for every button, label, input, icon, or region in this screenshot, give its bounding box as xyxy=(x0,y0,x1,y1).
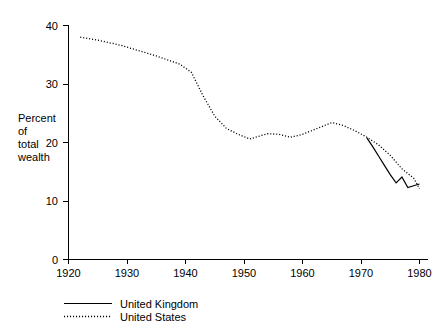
y-tick-label-40: 40 xyxy=(46,20,58,32)
legend-label-united-states: United States xyxy=(120,311,187,323)
y-tick-label-0: 0 xyxy=(52,254,58,266)
chart-container: 40 30 20 10 0 Percent of total wealth 19… xyxy=(0,0,447,331)
wealth-share-line-chart: 40 30 20 10 0 Percent of total wealth 19… xyxy=(0,0,447,331)
legend-label-united-kingdom: United Kingdom xyxy=(120,298,198,310)
chart-background xyxy=(0,0,447,331)
x-tick-label-1960: 1960 xyxy=(290,267,314,279)
y-tick-label-20: 20 xyxy=(46,137,58,149)
x-tick-label-1980: 1980 xyxy=(407,267,431,279)
y-axis-title-line-2: of xyxy=(18,125,28,137)
y-axis-title-line-1: Percent xyxy=(18,112,56,124)
x-tick-label-1970: 1970 xyxy=(349,267,373,279)
y-tick-label-10: 10 xyxy=(46,195,58,207)
x-tick-label-1930: 1930 xyxy=(115,267,139,279)
y-tick-label-30: 30 xyxy=(46,78,58,90)
x-tick-label-1920: 1920 xyxy=(56,267,80,279)
x-tick-label-1950: 1950 xyxy=(232,267,256,279)
y-axis-title-line-3: total xyxy=(18,138,39,150)
x-tick-label-1940: 1940 xyxy=(173,267,197,279)
y-axis-title-line-4: wealth xyxy=(17,151,50,163)
